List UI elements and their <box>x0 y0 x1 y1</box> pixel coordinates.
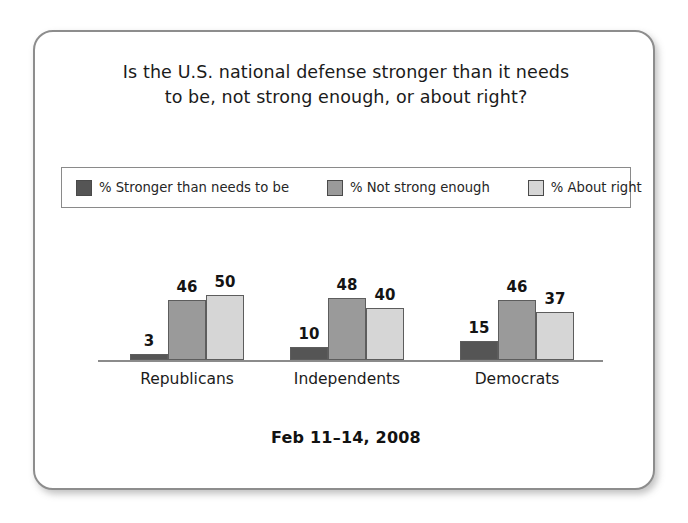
category-label-independents: Independents <box>267 370 427 388</box>
bar-democrats-series-1 <box>498 300 536 360</box>
bar-independents-series-2 <box>366 308 404 360</box>
bar-value-label-independents-series-1: 48 <box>328 276 366 294</box>
bar-independents-series-0 <box>290 347 328 360</box>
category-label-democrats: Democrats <box>437 370 597 388</box>
screenshot-canvas: Is the U.S. national defense stronger th… <box>0 0 688 523</box>
bar-republicans-series-2 <box>206 295 244 360</box>
bar-value-label-democrats-series-2: 37 <box>536 290 574 308</box>
bar-value-label-independents-series-0: 10 <box>290 325 328 343</box>
chart-card: Is the U.S. national defense stronger th… <box>33 30 655 490</box>
bar-democrats-series-2 <box>536 312 574 360</box>
bar-value-label-democrats-series-0: 15 <box>460 319 498 337</box>
category-label-republicans: Republicans <box>107 370 267 388</box>
bar-value-label-democrats-series-1: 46 <box>498 278 536 296</box>
bar-democrats-series-0 <box>460 341 498 361</box>
bar-value-label-independents-series-2: 40 <box>366 286 404 304</box>
axis-baseline <box>98 360 603 362</box>
bar-republicans-series-1 <box>168 300 206 360</box>
bar-chart-plot: 34650104840154637 RepublicansIndependent… <box>35 32 657 492</box>
bar-independents-series-1 <box>328 298 366 360</box>
bar-value-label-republicans-series-2: 50 <box>206 273 244 291</box>
bar-value-label-republicans-series-0: 3 <box>130 332 168 350</box>
bar-republicans-series-0 <box>130 354 168 360</box>
bar-value-label-republicans-series-1: 46 <box>168 278 206 296</box>
footer-date: Feb 11–14, 2008 <box>35 428 657 447</box>
